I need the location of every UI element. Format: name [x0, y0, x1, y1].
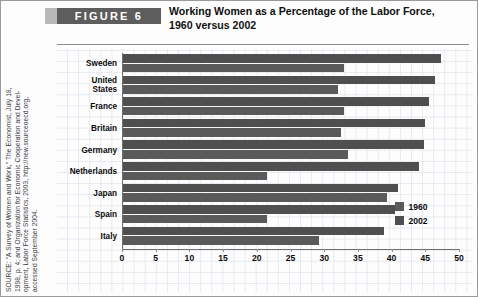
- x-axis-tick: [257, 249, 258, 252]
- bar-group: [122, 96, 473, 118]
- bar-2002: [122, 227, 384, 236]
- bar-2002: [122, 54, 441, 63]
- chart-row: Britain: [57, 118, 473, 140]
- bar-group: [122, 118, 473, 140]
- figure-page: SOURCE: "A Survey of Women and Work," Th…: [0, 0, 478, 297]
- figure-title-line-2: 1960 versus 2002: [169, 19, 471, 33]
- figure-number-label: FIGURE 6: [75, 10, 143, 22]
- source-line-4: accessed September 2004.: [31, 7, 40, 292]
- bar-1960: [122, 193, 387, 202]
- x-axis-tick: [425, 249, 426, 252]
- category-label: United States: [57, 76, 122, 95]
- bar-1960: [122, 85, 338, 94]
- category-label: Netherlands: [57, 167, 122, 176]
- legend-item: 1960: [395, 201, 467, 212]
- legend-label: 1960: [409, 202, 428, 212]
- category-label: Spain: [57, 210, 122, 219]
- chart-row: France: [57, 96, 473, 118]
- x-axis-tick-label: 50: [454, 253, 464, 263]
- bar-1960: [122, 215, 267, 224]
- x-axis-tick-label: 10: [185, 253, 195, 263]
- x-axis-tick: [156, 249, 157, 252]
- bar-1960: [122, 64, 344, 73]
- source-line-1: SOURCE: "A Survey of Women and Work," Th…: [5, 7, 14, 292]
- x-axis-tick-label: 25: [286, 253, 296, 263]
- chart-legend: 19602002: [395, 201, 467, 229]
- figure-number-badge: FIGURE 6: [57, 8, 161, 24]
- category-label: Germany: [57, 146, 122, 155]
- chart-row: Sweden: [57, 53, 473, 75]
- chart-row: United States: [57, 75, 473, 97]
- x-axis-tick-label: 5: [153, 253, 158, 263]
- category-label: France: [57, 102, 122, 111]
- bar-2002: [122, 162, 419, 171]
- bar-group: [122, 161, 473, 183]
- figure-title: Working Women as a Percentage of the Lab…: [169, 5, 471, 32]
- chart-row: Germany: [57, 139, 473, 161]
- x-axis-tick: [189, 249, 190, 252]
- category-label: Japan: [57, 189, 122, 198]
- x-axis-tick: [223, 249, 224, 252]
- bar-group: [122, 75, 473, 97]
- category-label: Italy: [57, 232, 122, 241]
- bar-2002: [122, 140, 424, 149]
- x-axis-tick-label: 15: [218, 253, 228, 263]
- bar-1960: [122, 107, 344, 116]
- chart-plot-area: SwedenUnited StatesFranceBritainGermanyN…: [57, 49, 473, 292]
- figure-header: FIGURE 6 Working Women as a Percentage o…: [57, 5, 471, 41]
- source-line-2: 1998, p. 4; and Organization for Economi…: [14, 7, 23, 292]
- x-axis-tick-label: 45: [421, 253, 431, 263]
- bar-group: [122, 139, 473, 161]
- bar-2002: [122, 184, 398, 193]
- bar-2002: [122, 205, 395, 214]
- x-axis-tick-label: 0: [120, 253, 125, 263]
- x-axis-tick: [358, 249, 359, 252]
- bar-1960: [122, 150, 348, 159]
- x-axis-tick: [392, 249, 393, 252]
- x-axis-tick: [291, 249, 292, 252]
- bar-2002: [122, 97, 429, 106]
- x-axis-tick: [459, 249, 460, 252]
- badge-lead-block: [45, 8, 57, 24]
- figure-title-line-1: Working Women as a Percentage of the Lab…: [169, 5, 471, 19]
- bar-1960: [122, 128, 341, 137]
- category-label: Britain: [57, 124, 122, 133]
- legend-label: 2002: [409, 216, 428, 226]
- bar-1960: [122, 236, 319, 245]
- legend-item: 2002: [395, 215, 467, 226]
- x-axis-tick-label: 35: [353, 253, 363, 263]
- bar-2002: [122, 119, 425, 128]
- bar-2002: [122, 76, 435, 85]
- chart-row: Netherlands: [57, 161, 473, 183]
- source-line-3: opment, Labor Force Statistics, 2003, ht…: [22, 7, 31, 292]
- x-axis-tick-label: 40: [387, 253, 397, 263]
- x-axis-tick-label: 20: [252, 253, 262, 263]
- bar-1960: [122, 172, 267, 181]
- x-axis-tick: [324, 249, 325, 252]
- x-axis-tick: [122, 249, 123, 252]
- source-note: SOURCE: "A Survey of Women and Work," Th…: [1, 1, 47, 297]
- x-axis-tick-label: 30: [319, 253, 329, 263]
- value-axis-baseline: [122, 53, 123, 250]
- bar-group: [122, 53, 473, 75]
- header-divider: [57, 44, 469, 45]
- legend-swatch: [395, 202, 404, 211]
- category-label: Sweden: [57, 59, 122, 68]
- legend-swatch: [395, 216, 404, 225]
- x-axis: 05101520253035404550: [122, 249, 473, 289]
